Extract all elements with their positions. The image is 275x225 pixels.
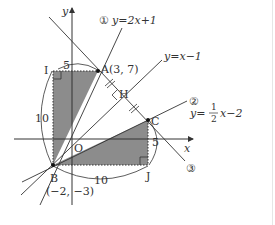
measure-JC: 5 bbox=[152, 136, 159, 149]
origin-label: O bbox=[74, 142, 83, 155]
line-xm1-equation: y=x−1 bbox=[163, 50, 202, 63]
equal-tick-marks-AH bbox=[105, 79, 115, 88]
point-B-coords: (−2, −3) bbox=[46, 185, 94, 198]
point-A-label: A(3, 7) bbox=[100, 63, 139, 76]
point-C bbox=[146, 118, 150, 122]
equal-tick-marks-HC bbox=[129, 104, 139, 113]
point-C-label: C bbox=[151, 115, 159, 128]
line-2-equation-suffix: x−2 bbox=[220, 107, 242, 120]
line-2-fraction-numerator: 1 bbox=[211, 102, 217, 112]
point-J-label: J bbox=[145, 170, 150, 183]
point-B bbox=[51, 163, 55, 167]
point-A bbox=[96, 69, 100, 73]
line-2-fraction-denominator: 2 bbox=[211, 114, 217, 124]
line-3-marker: ③ bbox=[186, 162, 196, 175]
right-angle-mark-H bbox=[112, 90, 117, 100]
measure-IA: 5 bbox=[63, 59, 70, 72]
measure-IB: 10 bbox=[35, 112, 49, 125]
line-2-equation-prefix: y= bbox=[189, 107, 205, 120]
point-I-label: I bbox=[44, 64, 48, 77]
line-1-equation: y=2x+1 bbox=[111, 14, 157, 27]
measure-BJ: 10 bbox=[94, 174, 108, 187]
line-1-marker: ① bbox=[99, 14, 109, 27]
point-H-label: H bbox=[119, 88, 129, 101]
x-axis-label: x bbox=[184, 142, 191, 155]
coordinate-diagram: y x O ① y=2x+1 y=x−1 ② y= 1 2 x−2 ③ A(3,… bbox=[0, 0, 275, 225]
y-axis-label: y bbox=[61, 5, 69, 18]
point-B-label: B bbox=[50, 172, 58, 185]
